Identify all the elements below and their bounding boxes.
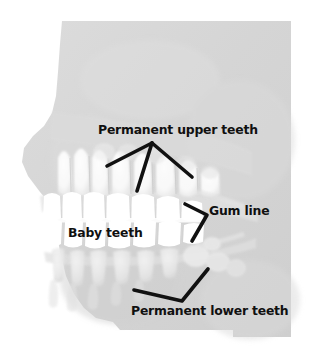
pointer-gum-line: [185, 204, 207, 241]
pointer-permanent-lower: [134, 269, 208, 301]
label-baby-teeth: Baby teeth: [68, 227, 143, 239]
dental-anatomy-figure: Permanent upper teeth Gum line Baby teet…: [0, 0, 309, 356]
label-gum-line: Gum line: [209, 205, 269, 217]
label-permanent-upper-teeth: Permanent upper teeth: [98, 124, 258, 136]
label-permanent-lower-teeth: Permanent lower teeth: [131, 305, 288, 317]
pointer-permanent-upper: [107, 143, 192, 191]
